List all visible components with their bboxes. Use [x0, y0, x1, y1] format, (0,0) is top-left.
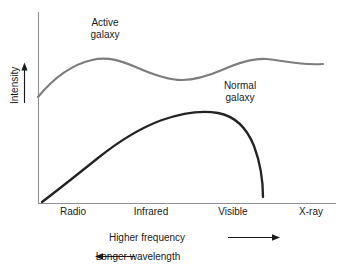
- curve-label-normal-galaxy-line1: Normal: [224, 80, 256, 92]
- annotation-longer-wavelength: Longer wavelength: [96, 251, 181, 263]
- x-tick-label-radio: Radio: [60, 206, 86, 218]
- annotation-higher-frequency: Higher frequency: [109, 232, 185, 244]
- curve-label-active-galaxy-line2: galaxy: [91, 29, 120, 41]
- y-axis-label: Intensity: [9, 67, 20, 104]
- galaxy-spectrum-chart: Intensity Active galaxy Normal galaxy Ra…: [0, 0, 341, 276]
- curve-label-normal-galaxy: Normal galaxy: [224, 80, 256, 103]
- x-tick-label-visible: Visible: [218, 206, 247, 218]
- curve-active-galaxy: [38, 59, 323, 97]
- y-axis-arrow-icon: [21, 63, 27, 104]
- curve-label-active-galaxy: Active galaxy: [91, 17, 120, 40]
- x-tick-label-infrared: Infrared: [134, 206, 168, 218]
- curve-normal-galaxy: [42, 112, 263, 202]
- curve-label-normal-galaxy-line2: galaxy: [224, 92, 256, 104]
- x-tick-label-xray: X-ray: [299, 206, 323, 218]
- higher-frequency-arrow-icon: [228, 234, 280, 240]
- curve-label-active-galaxy-line1: Active: [91, 17, 120, 29]
